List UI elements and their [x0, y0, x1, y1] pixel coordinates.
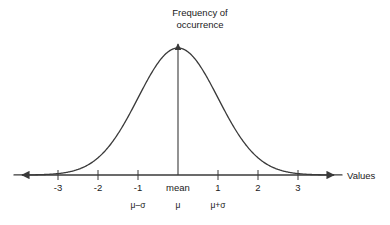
x-tick-label-plus3: 3: [295, 182, 300, 193]
x-tick-label-plus2: 2: [255, 182, 260, 193]
x-tick-label-minus2: -2: [94, 182, 102, 193]
distribution-plot: Frequency of occurrence -3 -2 -1 mean 1 …: [0, 0, 390, 225]
x-tick-label-minus3: -3: [54, 182, 62, 193]
sigma-label-mean: μ: [176, 200, 181, 210]
sigma-label-plus-one: μ+σ: [210, 200, 226, 210]
y-axis-title-line2: occurrence: [177, 19, 224, 30]
x-axis-name: Values: [347, 170, 376, 181]
x-tick-label-minus1: -1: [134, 182, 142, 193]
y-axis-title-line1: Frequency of: [172, 7, 228, 18]
normal-distribution-figure: Frequency of occurrence -3 -2 -1 mean 1 …: [0, 0, 390, 225]
x-tick-label-plus1: 1: [215, 182, 220, 193]
sigma-label-minus-one: μ–σ: [131, 200, 147, 210]
x-tick-label-mean: mean: [166, 182, 190, 193]
